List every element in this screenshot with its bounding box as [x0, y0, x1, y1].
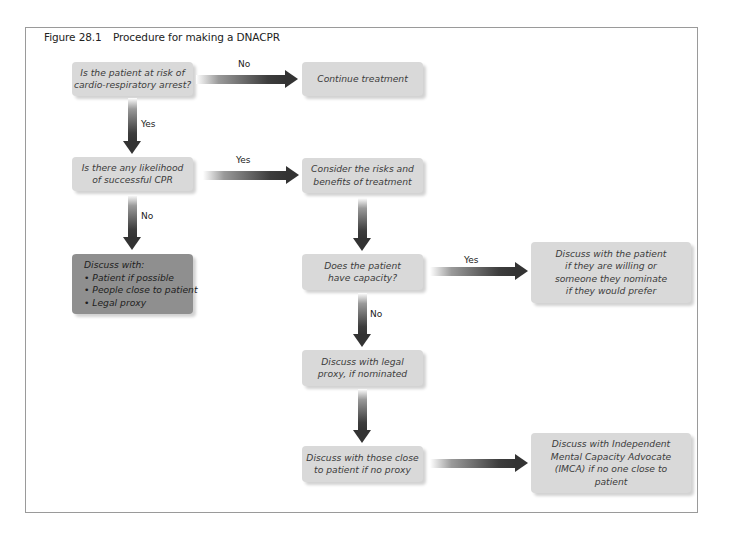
node-text: Mental Capacity Advocate — [551, 451, 671, 464]
node-text: Does the patient — [324, 260, 401, 273]
node-text: proxy, if nominated — [318, 368, 407, 381]
node-capacity-question: Does the patient have capacity? — [302, 254, 423, 290]
node-text: Consider the risks and — [311, 163, 414, 176]
node-discuss-with-list: Discuss with: Patient if possible People… — [72, 254, 193, 314]
node-text: if they are willing or — [565, 260, 657, 273]
node-text: Discuss with legal — [321, 356, 403, 369]
figure-number: Figure 28.1 — [44, 31, 102, 43]
node-text: benefits of treatment — [313, 176, 411, 189]
edge-label-no: No — [238, 59, 250, 69]
list-item: Patient if possible — [84, 272, 174, 285]
node-text: have capacity? — [328, 272, 397, 285]
list-item: Legal proxy — [84, 297, 146, 310]
node-text: Discuss with the patient — [556, 248, 667, 261]
node-text: to patient if no proxy — [314, 464, 411, 477]
node-continue-treatment: Continue treatment — [302, 62, 423, 96]
arrow-right-icon — [430, 267, 528, 276]
node-legal-proxy: Discuss with legal proxy, if nominated — [302, 350, 423, 386]
edge-label-yes: Yes — [464, 255, 479, 265]
figure-caption: Figure 28.1 Procedure for making a DNACP… — [44, 31, 280, 43]
node-text: (IMCA) if no one close to — [555, 463, 667, 476]
node-text: patient — [595, 476, 628, 489]
node-text: Is the patient at risk of — [80, 67, 184, 80]
node-text: Is there any likelihood — [82, 162, 184, 175]
arrow-down-icon — [128, 195, 137, 250]
edge-label-yes: Yes — [141, 119, 156, 129]
node-text: cardio-respiratory arrest? — [74, 79, 191, 92]
node-text: someone they nominate — [555, 273, 667, 286]
list-heading: Discuss with: — [84, 259, 144, 272]
node-imca: Discuss with Independent Mental Capacity… — [531, 433, 691, 493]
arrow-right-icon — [196, 75, 298, 84]
arrow-right-icon — [203, 171, 299, 180]
arrow-down-icon — [358, 389, 367, 443]
arrow-right-icon — [430, 459, 528, 468]
node-risk-question: Is the patient at risk of cardio-respira… — [72, 62, 193, 96]
node-text: if they would prefer — [566, 285, 656, 298]
arrow-down-icon — [358, 198, 367, 251]
node-text: Continue treatment — [317, 73, 408, 86]
figure-title: Procedure for making a DNACPR — [113, 31, 280, 43]
arrow-down-icon — [358, 293, 367, 347]
node-text: Discuss with those close — [306, 452, 418, 465]
node-consider-risks: Consider the risks and benefits of treat… — [302, 158, 423, 193]
arrow-down-icon — [128, 98, 137, 154]
list-item: People close to patient — [84, 284, 198, 297]
node-text: Discuss with Independent — [552, 438, 670, 451]
node-text: of successful CPR — [92, 174, 173, 187]
edge-label-yes: Yes — [236, 155, 251, 165]
node-cpr-likelihood: Is there any likelihood of successful CP… — [72, 157, 193, 191]
edge-label-no: No — [370, 309, 382, 319]
edge-label-no: No — [141, 211, 153, 221]
node-close-to-patient: Discuss with those close to patient if n… — [302, 446, 423, 482]
node-discuss-patient: Discuss with the patient if they are wil… — [531, 242, 691, 303]
